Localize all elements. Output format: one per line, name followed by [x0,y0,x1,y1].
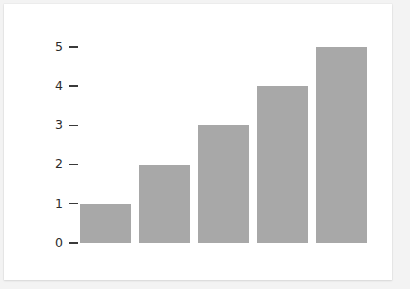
screenshot-canvas: 0 1 2 3 4 [0,0,410,289]
bar-2[interactable] [139,165,190,243]
chart-card: 0 1 2 3 4 [4,4,392,280]
bar-5[interactable] [316,47,367,243]
bar-series [4,4,392,280]
bar-4[interactable] [257,86,308,243]
bar-1[interactable] [80,204,131,243]
bar-3[interactable] [198,125,249,243]
plot-area: 0 1 2 3 4 [4,4,392,280]
